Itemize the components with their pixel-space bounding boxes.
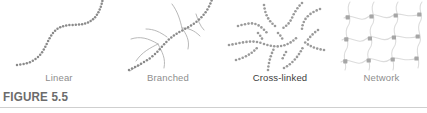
linear-chain-illustration xyxy=(0,0,118,72)
polymer-structure-panels: Linear xyxy=(0,0,427,92)
figure-number-caption: FIGURE 5.5 xyxy=(3,90,68,104)
panel-label-cross-linked: Cross-linked xyxy=(224,72,336,83)
panel-cross-linked: Cross-linked xyxy=(224,0,336,92)
panel-linear: Linear xyxy=(0,0,118,92)
branched-chain-illustration xyxy=(112,0,224,72)
figure-container: Linear xyxy=(0,0,427,113)
panel-label-branched: Branched xyxy=(112,72,224,83)
panel-label-linear: Linear xyxy=(0,72,118,83)
cross-linked-chain-illustration xyxy=(224,0,336,72)
caption-divider-rule xyxy=(0,107,427,108)
figure-caption-block: FIGURE 5.5 xyxy=(0,90,427,113)
network-lattice-illustration xyxy=(336,0,427,72)
panel-network: Network xyxy=(336,0,427,92)
panel-branched: Branched xyxy=(112,0,224,92)
panel-label-network: Network xyxy=(336,72,427,83)
